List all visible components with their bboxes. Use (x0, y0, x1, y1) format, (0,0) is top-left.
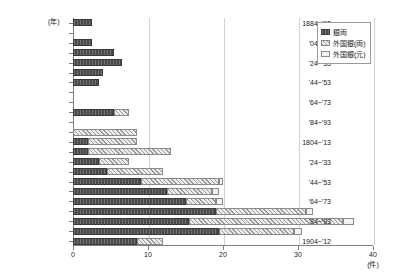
x-axis-tick-label: 30 (294, 251, 302, 258)
bar-row (73, 208, 373, 215)
y-tick (69, 211, 73, 212)
bar-segment-b (107, 168, 163, 175)
y-axis-tick-label: '84~'93 (309, 119, 331, 126)
y-tick (69, 191, 73, 192)
y-tick (69, 221, 73, 222)
bar-segment-a (73, 79, 99, 86)
bar-row (73, 188, 373, 195)
bar-row (73, 148, 373, 155)
y-tick (69, 63, 73, 64)
y-tick (69, 92, 73, 93)
y-tick (69, 162, 73, 163)
legend-label: 外国銀(両) (333, 38, 366, 48)
bar-segment-b (216, 208, 306, 215)
bar-segment-a (73, 238, 137, 245)
y-tick (69, 43, 73, 44)
legend-item: 銀両 (321, 27, 366, 37)
bar-segment-b (186, 198, 216, 205)
bar-row (73, 69, 373, 76)
bar-segment-b (88, 138, 137, 145)
legend-swatch-c (321, 51, 330, 57)
y-tick (69, 122, 73, 123)
bar-row (73, 228, 373, 235)
bar-segment-a (73, 158, 99, 165)
y-tick (69, 231, 73, 232)
bar-segment-a (73, 59, 122, 66)
y-tick (69, 112, 73, 113)
bar-segment-a (73, 148, 88, 155)
y-axis-tick-label: '44~'53 (309, 178, 331, 185)
y-tick (69, 152, 73, 153)
legend-swatch-a (321, 29, 330, 35)
x-tick (148, 246, 149, 250)
x-axis-tick-label: 10 (144, 251, 152, 258)
legend-swatch-b (321, 40, 330, 46)
bar-segment-c (306, 208, 314, 215)
bar-segment-b (219, 228, 294, 235)
x-axis-unit-label: (件) (367, 259, 379, 269)
bar-segment-b (141, 178, 220, 185)
y-axis-unit-label: (年) (48, 16, 60, 26)
bar-segment-c (343, 218, 354, 225)
bar-segment-a (73, 208, 216, 215)
y-tick (69, 132, 73, 133)
y-tick (69, 201, 73, 202)
gridline-40 (374, 18, 375, 245)
x-tick (373, 246, 374, 250)
legend-item: 外国銀(両) (321, 38, 366, 48)
bar-row (73, 168, 373, 175)
bar-segment-b (88, 148, 171, 155)
y-axis-tick-label: 1804~'13 (302, 138, 331, 145)
y-tick (69, 82, 73, 83)
y-tick (69, 73, 73, 74)
y-tick (69, 172, 73, 173)
bar-segment-b (99, 158, 129, 165)
legend: 銀両外国銀(両)外国銀(元) (317, 22, 371, 64)
legend-label: 外国銀(元) (333, 49, 366, 59)
y-axis-tick-label: '64~'73 (309, 99, 331, 106)
bar-segment-a (73, 39, 92, 46)
x-axis-tick-label: 40 (369, 251, 377, 258)
bar-segment-a (73, 109, 114, 116)
bar-segment-a (73, 168, 107, 175)
bar-segment-c (216, 198, 224, 205)
y-axis-tick-label: 1904~'12 (302, 238, 331, 245)
bar-segment-a (73, 49, 114, 56)
x-axis-tick-label: 0 (71, 251, 75, 258)
bar-segment-a (73, 198, 186, 205)
bar-chart: (年) 1884~'93'04~'13'24~'33'44~'53'64~'73… (0, 0, 409, 279)
bar-segment-a (73, 178, 141, 185)
bar-segment-a (73, 19, 92, 26)
y-tick (69, 102, 73, 103)
legend-label: 銀両 (333, 27, 347, 37)
bar-segment-a (73, 138, 88, 145)
bar-segment-a (73, 188, 167, 195)
y-tick (69, 33, 73, 34)
y-tick (69, 142, 73, 143)
bar-segment-b (114, 109, 129, 116)
bar-segment-b (167, 188, 212, 195)
legend-item: 外国銀(元) (321, 49, 366, 59)
x-tick (223, 246, 224, 250)
bar-segment-c (294, 228, 302, 235)
bar-segment-a (73, 228, 219, 235)
y-axis-tick-label: '24~'33 (309, 158, 331, 165)
bar-segment-a (73, 69, 103, 76)
y-tick (69, 182, 73, 183)
bar-row (73, 109, 373, 116)
y-tick (69, 241, 73, 242)
bar-row (73, 89, 373, 96)
y-tick (69, 53, 73, 54)
x-tick (298, 246, 299, 250)
y-axis-tick-label: '64~'73 (309, 198, 331, 205)
bar-row (73, 129, 373, 136)
y-axis-tick-label: '44~'53 (309, 79, 331, 86)
bar-segment-b (73, 129, 137, 136)
y-tick (69, 23, 73, 24)
bar-segment-b (137, 238, 163, 245)
x-axis-tick-label: 20 (219, 251, 227, 258)
bar-segment-a (73, 218, 189, 225)
bar-segment-c (219, 178, 223, 185)
y-axis-tick-label: '84~'93 (309, 218, 331, 225)
x-tick (73, 246, 74, 250)
